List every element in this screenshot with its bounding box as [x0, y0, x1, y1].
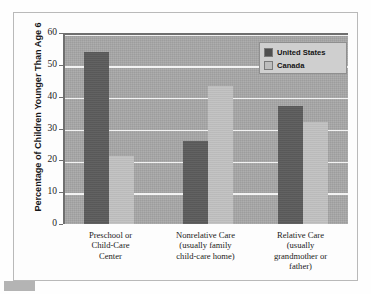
corner-tab [4, 281, 35, 291]
legend-swatch-canada [264, 61, 273, 70]
bar-texture [109, 156, 134, 224]
x-category-line: Preschool or [59, 230, 163, 240]
legend: United States Canada [259, 42, 347, 74]
legend-item-united-states: United States [264, 46, 342, 58]
x-category-line: Center [59, 251, 163, 261]
y-tick-label-30: 30 [31, 123, 57, 133]
bar-united-states-1 [183, 141, 208, 224]
legend-item-canada: Canada [264, 59, 342, 71]
bar-canada-1 [208, 86, 233, 224]
x-category-label-1: Nonrelative Care(usually familychild-car… [154, 230, 258, 261]
plot-area: United States Canada [63, 33, 348, 224]
y-tick-mark-0 [59, 224, 63, 225]
bar-texture [278, 106, 303, 224]
bar-united-states-0 [84, 52, 109, 224]
bar-united-states-2 [278, 106, 303, 224]
bar-canada-0 [109, 156, 134, 224]
x-category-line: (usually [249, 240, 353, 250]
y-tick-label-50: 50 [31, 59, 57, 69]
legend-swatch-united-states [264, 48, 273, 57]
y-tick-label-20: 20 [31, 154, 57, 164]
x-category-line: father) [249, 261, 353, 271]
x-category-line: child-care home) [154, 251, 258, 261]
x-category-line: Relative Care [249, 230, 353, 240]
x-category-line: grandmother or [249, 251, 353, 261]
legend-label-canada: Canada [277, 61, 304, 70]
y-tick-label-40: 40 [31, 91, 57, 101]
figure-container: Percentage of Children Younger Than Age … [0, 0, 371, 294]
y-tick-label-0: 0 [31, 218, 57, 228]
bar-texture [183, 141, 208, 224]
bar-canada-2 [303, 122, 328, 224]
x-category-line: (usually family [154, 240, 258, 250]
x-category-label-0: Preschool orChild-CareCenter [59, 230, 163, 261]
legend-label-united-states: United States [277, 48, 326, 57]
y-tick-label-60: 60 [31, 27, 57, 37]
bar-texture [303, 122, 328, 224]
bar-texture [84, 52, 109, 224]
gridline-60 [65, 34, 348, 36]
y-tick-label-10: 10 [31, 186, 57, 196]
bar-texture [208, 86, 233, 224]
x-category-line: Child-Care [59, 240, 163, 250]
x-category-line: Nonrelative Care [154, 230, 258, 240]
x-category-label-2: Relative Care(usuallygrandmother orfathe… [249, 230, 353, 272]
